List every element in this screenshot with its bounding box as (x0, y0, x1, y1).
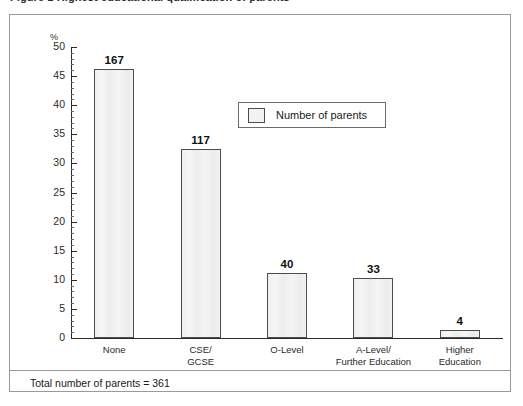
bar-value-label: 167 (84, 54, 144, 66)
y-tick-minor (71, 181, 74, 182)
y-tick-major (71, 280, 77, 281)
bar (94, 69, 134, 338)
y-tick-label: 10 (21, 273, 65, 285)
y-tick-minor (71, 140, 74, 141)
y-tick-minor (71, 291, 74, 292)
y-tick-label: 5 (21, 302, 65, 314)
bar (440, 330, 480, 338)
x-axis-line (71, 338, 503, 339)
y-tick-minor (71, 227, 74, 228)
y-tick-label: 15 (21, 244, 65, 256)
y-tick-minor (71, 268, 74, 269)
footer-divider (10, 370, 510, 371)
x-tick-label: Higher Education (408, 344, 512, 367)
y-tick-label-wrap: 15 (10, 251, 65, 252)
y-tick-minor (71, 245, 74, 246)
bar (353, 278, 393, 338)
y-tick-minor (71, 239, 74, 240)
y-tick-label: 35 (21, 127, 65, 139)
y-tick-minor (71, 117, 74, 118)
y-tick-minor (71, 128, 74, 129)
y-tick-major (71, 309, 77, 310)
y-tick-major (71, 134, 77, 135)
y-tick-label-wrap: 5 (10, 309, 65, 310)
y-tick-label: 40 (21, 98, 65, 110)
y-tick-minor (71, 152, 74, 153)
y-tick-major (71, 163, 77, 164)
y-tick-minor (71, 169, 74, 170)
y-tick-minor (71, 315, 74, 316)
y-tick-minor (71, 274, 74, 275)
y-tick-minor (71, 297, 74, 298)
bar-value-label: 117 (171, 134, 231, 146)
bar (267, 273, 307, 338)
y-tick-minor (71, 216, 74, 217)
y-tick-minor (71, 286, 74, 287)
y-tick-minor (71, 332, 74, 333)
y-tick-label-wrap: 35 (10, 134, 65, 135)
y-tick-label: 25 (21, 186, 65, 198)
y-tick-label: 20 (21, 215, 65, 227)
chart-frame: % 05101520253035404550 16711740334 NoneC… (9, 14, 511, 392)
legend[interactable]: Number of parents (238, 102, 386, 128)
y-tick-label-wrap: 30 (10, 163, 65, 164)
y-tick-minor (71, 111, 74, 112)
y-tick-minor (71, 187, 74, 188)
y-tick-minor (71, 233, 74, 234)
y-tick-minor (71, 326, 74, 327)
legend-label: Number of parents (276, 109, 367, 121)
y-tick-minor (71, 175, 74, 176)
legend-swatch-icon (248, 108, 265, 123)
y-tick-minor (71, 146, 74, 147)
y-tick-label-wrap: 45 (10, 76, 65, 77)
y-tick-minor (71, 257, 74, 258)
y-tick-minor (71, 262, 74, 263)
y-tick-label: 0 (21, 331, 65, 343)
y-tick-major (71, 222, 77, 223)
y-tick-label: 50 (21, 40, 65, 52)
figure-caption: Figure 1 Highest educational qualificati… (10, 0, 510, 4)
y-tick-minor (71, 53, 74, 54)
y-tick-minor (71, 88, 74, 89)
y-tick-minor (71, 303, 74, 304)
y-tick-major (71, 105, 77, 106)
y-tick-minor (71, 123, 74, 124)
y-tick-minor (71, 321, 74, 322)
y-tick-minor (71, 210, 74, 211)
plot-area: % 05101520253035404550 16711740334 NoneC… (10, 15, 512, 371)
y-tick-minor (71, 59, 74, 60)
bar-value-label: 40 (257, 258, 317, 270)
y-tick-minor (71, 82, 74, 83)
bar-value-label: 33 (343, 263, 403, 275)
y-tick-label-wrap: 40 (10, 105, 65, 106)
y-tick-minor (71, 204, 74, 205)
footer-note: Total number of parents = 361 (30, 377, 170, 389)
y-tick-minor (71, 158, 74, 159)
y-tick-label-wrap: 0 (10, 338, 65, 339)
bar (181, 149, 221, 338)
y-tick-minor (71, 64, 74, 65)
y-tick-label: 30 (21, 156, 65, 168)
y-tick-major (71, 338, 77, 339)
y-tick-major (71, 47, 77, 48)
y-tick-minor (71, 94, 74, 95)
y-tick-minor (71, 198, 74, 199)
y-tick-major (71, 76, 77, 77)
bar-value-label: 4 (430, 315, 490, 327)
y-tick-label-wrap: 20 (10, 222, 65, 223)
y-tick-label-wrap: 25 (10, 193, 65, 194)
y-tick-minor (71, 99, 74, 100)
y-tick-label-wrap: 10 (10, 280, 65, 281)
y-tick-label-wrap: 50 (10, 47, 65, 48)
y-tick-minor (71, 70, 74, 71)
y-tick-label: 45 (21, 69, 65, 81)
y-tick-major (71, 251, 77, 252)
y-tick-major (71, 193, 77, 194)
